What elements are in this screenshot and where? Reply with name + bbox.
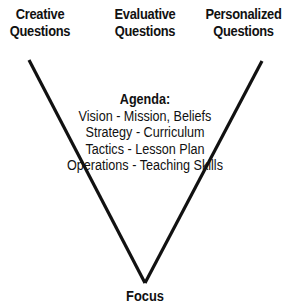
agenda-item-vision: Vision - Mission, Beliefs	[64, 108, 226, 125]
agenda-item-tactics: Tactics - Lesson Plan	[64, 141, 226, 158]
focus-label: Focus	[99, 288, 191, 304]
agenda-block: Agenda: Vision - Mission, Beliefs Strate…	[64, 91, 226, 174]
agenda-item-operations: Operations - Teaching Skills	[64, 157, 226, 174]
agenda-item-strategy: Strategy - Curriculum	[64, 124, 226, 141]
agenda-title: Agenda:	[64, 91, 226, 108]
